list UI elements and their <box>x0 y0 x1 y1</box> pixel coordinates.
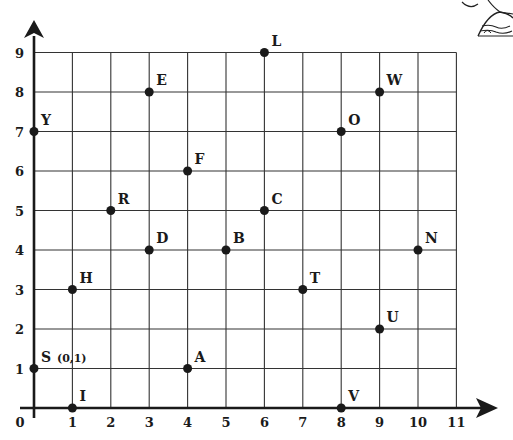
point-marker-icon <box>183 167 192 176</box>
plotted-point: L <box>260 33 282 58</box>
y-tick-label: 8 <box>15 85 24 100</box>
plotted-point: R <box>106 191 130 216</box>
x-tick-label: 10 <box>409 415 427 430</box>
x-tick-label: 7 <box>298 415 307 430</box>
plotted-point: C <box>260 191 283 216</box>
point-marker-icon <box>375 325 384 334</box>
plotted-points: LEWYOFRCDBNHTUS(0,1)AIV <box>30 33 439 413</box>
point-label: Y <box>40 112 52 128</box>
y-tick-label: 6 <box>15 164 24 179</box>
point-marker-icon <box>337 127 346 136</box>
y-tick-label: 1 <box>15 362 24 377</box>
point-coordinate-label: (0,1) <box>57 352 87 365</box>
plotted-point: O <box>337 112 361 137</box>
cartoon-decoration-icon <box>462 0 513 36</box>
x-tick-label: 11 <box>447 415 465 430</box>
point-label: W <box>386 72 403 88</box>
point-label: L <box>271 33 281 49</box>
plotted-point: U <box>375 309 399 334</box>
x-tick-label: 6 <box>260 415 269 430</box>
coordinate-plane: 01234567891011123456789 LEWYOFRCDBNHTUS(… <box>0 0 513 440</box>
point-marker-icon <box>68 404 77 413</box>
x-tick-label: 1 <box>68 415 77 430</box>
point-marker-icon <box>145 246 154 255</box>
grid-lines <box>34 53 456 409</box>
point-marker-icon <box>260 206 269 215</box>
point-label: T <box>310 270 321 286</box>
point-marker-icon <box>106 206 115 215</box>
plotted-point: E <box>145 72 167 97</box>
y-tick-label: 9 <box>15 46 24 61</box>
y-tick-label: 7 <box>15 125 24 140</box>
point-marker-icon <box>30 364 39 373</box>
plotted-point: F <box>183 151 205 176</box>
plotted-point: H <box>68 270 93 295</box>
point-marker-icon <box>30 127 39 136</box>
y-tick-label: 5 <box>15 204 24 219</box>
point-marker-icon <box>337 404 346 413</box>
x-tick-label: 5 <box>221 415 230 430</box>
point-label: D <box>156 230 168 246</box>
point-marker-icon <box>260 48 269 57</box>
x-tick-label: 0 <box>15 415 24 430</box>
y-tick-label: 3 <box>15 283 24 298</box>
x-tick-label: 3 <box>145 415 154 430</box>
point-marker-icon <box>183 364 192 373</box>
plotted-point: D <box>145 230 169 255</box>
x-tick-label: 2 <box>106 415 115 430</box>
plotted-point: N <box>414 230 439 255</box>
point-label: N <box>425 230 438 246</box>
point-marker-icon <box>222 246 231 255</box>
point-label: O <box>348 112 360 128</box>
point-marker-icon <box>145 88 154 97</box>
point-marker-icon <box>414 246 423 255</box>
plotted-point: B <box>222 230 246 255</box>
point-label: F <box>195 151 205 167</box>
axes <box>20 20 498 418</box>
point-marker-icon <box>298 285 307 294</box>
point-marker-icon <box>375 88 384 97</box>
y-axis-arrow-icon <box>24 20 44 38</box>
y-tick-label: 2 <box>15 322 24 337</box>
coordinate-grid-diagram: 01234567891011123456789 LEWYOFRCDBNHTUS(… <box>0 0 513 440</box>
x-tick-label: 9 <box>375 415 384 430</box>
point-label: R <box>118 191 130 207</box>
point-label: U <box>387 309 399 325</box>
point-label: A <box>194 349 207 365</box>
point-label: S <box>41 349 51 365</box>
plotted-point: A <box>183 349 207 374</box>
x-tick-label: 8 <box>337 415 346 430</box>
plotted-point: T <box>298 270 321 295</box>
point-label: B <box>233 230 245 246</box>
x-tick-label: 4 <box>183 415 192 430</box>
point-marker-icon <box>68 285 77 294</box>
point-label: E <box>156 72 167 88</box>
point-label: I <box>79 388 86 404</box>
point-label: C <box>271 191 282 207</box>
plotted-point: S(0,1) <box>30 349 87 374</box>
y-tick-label: 4 <box>15 243 24 258</box>
point-label: H <box>79 270 92 286</box>
point-label: V <box>347 388 360 404</box>
